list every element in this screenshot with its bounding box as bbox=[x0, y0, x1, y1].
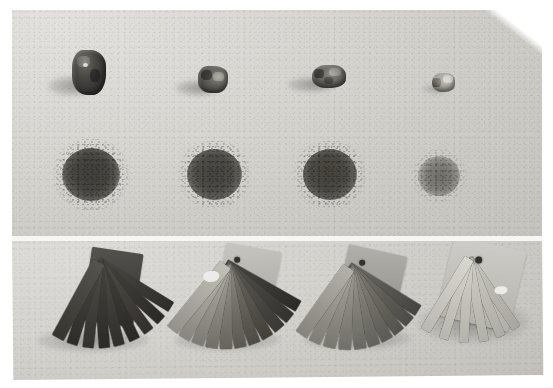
bottom-photo-panel: chip-fan-1 chip-fan-2 bbox=[12, 236, 543, 380]
rock-facet bbox=[324, 77, 333, 84]
panel-divider bbox=[12, 236, 542, 241]
powder-spot-2: powder-spot-2 bbox=[187, 149, 242, 200]
chip-fan-4: chip-fan-4 bbox=[416, 240, 541, 357]
chip-fan-2: chip-fan-2 bbox=[165, 242, 292, 359]
powder-spot-1: powder-spot-1 bbox=[62, 148, 120, 201]
powder-spot-3: powder-spot-3 bbox=[303, 149, 357, 200]
rock-facet bbox=[443, 75, 453, 83]
rock-facet bbox=[83, 63, 88, 67]
chip-fan-rivet-hole bbox=[234, 257, 240, 263]
rock-body bbox=[312, 65, 346, 88]
chip-fan-1: chip-fan-1 bbox=[32, 248, 153, 359]
powder-spot-4: powder-spot-4 bbox=[418, 156, 460, 196]
rock-facet bbox=[90, 69, 100, 82]
rock-body bbox=[72, 50, 106, 95]
rock-facet bbox=[432, 78, 441, 87]
rock-body bbox=[198, 66, 228, 93]
rock-facet bbox=[201, 70, 212, 80]
chip-fan-3: chip-fan-3 bbox=[296, 243, 423, 358]
powder-spot-speckle bbox=[410, 149, 467, 203]
figure-plate: rock-specimen-1 rock-specimen-2 rock-spe… bbox=[0, 0, 553, 388]
powder-spot-speckle bbox=[52, 138, 131, 210]
top-photo-panel: rock-specimen-1 rock-specimen-2 rock-spe… bbox=[12, 10, 542, 236]
corner-cut-highlight bbox=[484, 10, 542, 56]
rock-facet bbox=[314, 69, 324, 78]
rock-facet bbox=[213, 72, 224, 81]
powder-spot-speckle bbox=[177, 140, 252, 209]
rock-body bbox=[432, 73, 455, 92]
chip-fan-rivet-hole bbox=[475, 256, 482, 263]
rock-facet bbox=[329, 68, 341, 76]
powder-spot-speckle bbox=[293, 140, 366, 209]
chip-fan-rivet-hole bbox=[359, 260, 365, 266]
